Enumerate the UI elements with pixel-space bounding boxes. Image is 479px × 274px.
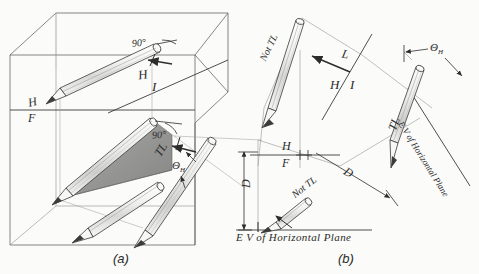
- dimension-h-b: [296, 150, 312, 160]
- label-fold-f-bottom-b: F: [282, 157, 289, 169]
- dimension-d-inclined-b: [316, 153, 398, 206]
- label-dim-d-vertical-b: D: [240, 179, 252, 188]
- label-ev-plane-bottom-b: E V of Horizontal Plane: [236, 232, 351, 243]
- ev-plane-inclined-line-b: [408, 88, 470, 186]
- label-fold-i-top-b: I: [350, 78, 354, 91]
- dimension-d-vertical-b: [238, 152, 258, 230]
- right-angle-top-a: [157, 40, 177, 44]
- label-fold-f-a: F: [28, 112, 35, 124]
- label-fold-h-bottom-b: H: [282, 140, 291, 152]
- leader-arrow-mid-a: [172, 146, 196, 152]
- theta-symbol-b: Θ: [430, 41, 438, 53]
- label-theta-h-b: ΘH: [430, 42, 443, 56]
- theta-symbol-a: Θ: [172, 159, 180, 171]
- label-fold-h-a: H: [27, 95, 38, 109]
- label-fold-i-a: I: [152, 80, 156, 93]
- label-fold-h-top-b: H: [330, 78, 339, 91]
- label-theta-h-a: ΘH: [172, 160, 185, 174]
- theta-subscript-b: H: [438, 48, 443, 56]
- label-angle-top-a: 90°: [132, 37, 147, 48]
- label-fold-h2-a: H: [137, 67, 148, 81]
- label-angle-mid-a: 90°: [152, 130, 167, 141]
- pencil-not-tl-bottom-b: [261, 197, 313, 233]
- theta-subscript-a: H: [180, 166, 185, 174]
- caption-b: (b): [338, 252, 354, 265]
- caption-a: (a): [113, 252, 129, 265]
